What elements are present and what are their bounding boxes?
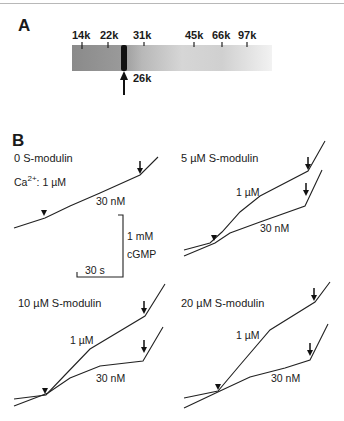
subpanel-title-2: 10 µM S-modulin	[18, 297, 101, 309]
calcium-label: Ca2+: 1 µM	[14, 174, 66, 188]
figure-graphics	[0, 0, 344, 421]
low-ca-label-2: 30 nM	[96, 372, 125, 384]
scale-y-label-1: 1 mM	[127, 230, 153, 242]
low-ca-label-3: 30 nM	[271, 372, 300, 384]
scale-x-label: 30 s	[85, 264, 105, 276]
low-ca-label-0: 30 nM	[96, 195, 125, 207]
high-ca-label-1: 1 µM	[236, 186, 260, 198]
trace-0-smodulin	[14, 157, 158, 228]
subpanel-title-0: 0 S-modulin	[14, 152, 73, 164]
low-ca-label-1: 30 nM	[260, 222, 289, 234]
panel-b-letter: B	[12, 131, 24, 151]
subpanel-title-3: 20 µM S-modulin	[181, 297, 264, 309]
scale-y-label-2: cGMP	[127, 248, 156, 260]
subpanel-title-1: 5 µM S-modulin	[181, 152, 258, 164]
high-ca-label-2: 1 µM	[70, 334, 94, 346]
high-ca-label-3: 1 µM	[236, 329, 260, 341]
gel-band-26k	[121, 45, 127, 71]
gel-lane	[72, 45, 272, 71]
